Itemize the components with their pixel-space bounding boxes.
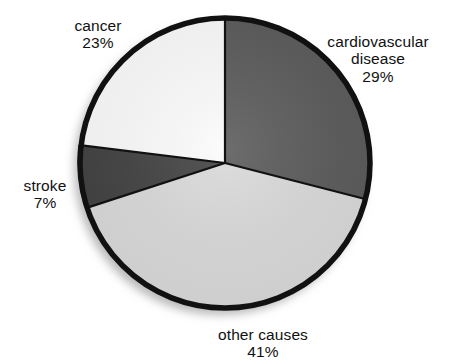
pie-label-other-causes-name: other causes	[178, 326, 348, 343]
pie-chart: cardiovascular disease 29% cancer 23% st…	[0, 0, 450, 364]
pie-label-cancer-percent: 23%	[38, 34, 158, 51]
pie-label-stroke-percent: 7%	[2, 194, 88, 211]
pie-label-cardiovascular-name: cardiovascular disease	[306, 33, 450, 68]
pie-label-cardiovascular: cardiovascular disease 29%	[306, 33, 450, 85]
pie-label-cardiovascular-percent: 29%	[306, 68, 450, 85]
pie-label-other-causes-percent: 41%	[178, 343, 348, 360]
pie-label-cancer-name: cancer	[38, 17, 158, 34]
pie-label-stroke: stroke 7%	[2, 177, 88, 212]
pie-label-stroke-name: stroke	[2, 177, 88, 194]
pie-label-other-causes: other causes 41%	[178, 326, 348, 361]
pie-label-cancer: cancer 23%	[38, 17, 158, 52]
